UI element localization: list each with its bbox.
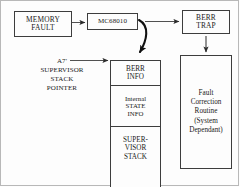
stack-pointer-line-1: A7'	[22, 57, 102, 66]
node-berr-trap[interactable]: BERR TRAP	[182, 10, 230, 34]
diagram-canvas: MEMORY FAULT MC68010 BERR TRAP Fault Cor…	[0, 0, 240, 187]
fault-routine-line-2: Correction	[191, 98, 222, 107]
node-memory-fault[interactable]: MEMORY FAULT	[14, 11, 72, 37]
arrow-processor-to-stack	[139, 20, 146, 52]
fault-routine-line-5: Dependant)	[189, 126, 223, 135]
label-supervisor-stack-pointer: A7' SUPERVISOR STACK POINTER	[22, 57, 102, 93]
supervisor-stack-line-1: SUPER-	[123, 136, 148, 144]
mc68010-label: MC68010	[98, 18, 127, 25]
stack-cell-berr-info[interactable]: BERR INFO	[111, 61, 160, 86]
node-fault-correction-routine[interactable]: Fault Correction Routine (System Dependa…	[180, 55, 232, 169]
supervisor-stack-line-3: STACK	[124, 153, 147, 161]
node-mc68010-processor[interactable]: MC68010	[87, 13, 138, 30]
fault-routine-line-3: Routine	[195, 107, 218, 116]
stack-cell-internal-state-info[interactable]: Internal STATE INFO	[111, 86, 160, 127]
supervisor-stack-line-2: VISOR	[125, 144, 147, 152]
memory-fault-line-2: FAULT	[31, 24, 54, 32]
stack-pointer-line-2: SUPERVISOR	[22, 66, 102, 75]
berr-info-line-2: INFO	[127, 73, 144, 81]
fault-routine-line-1: Fault	[199, 89, 214, 98]
state-info-line-3: INFO	[128, 110, 144, 118]
node-supervisor-stack-frame: BERR INFO Internal STATE INFO SUPER- VIS…	[110, 60, 161, 187]
fault-routine-line-4: (System	[194, 117, 218, 126]
stack-pointer-line-4: POINTER	[22, 84, 102, 93]
state-info-line-2: STATE	[126, 102, 146, 110]
state-info-line-1: Internal	[125, 95, 146, 103]
stack-cell-supervisor-stack[interactable]: SUPER- VISOR STACK	[111, 127, 160, 170]
berr-trap-line-2: TRAP	[196, 22, 216, 30]
stack-pointer-line-3: STACK	[22, 75, 102, 84]
berr-info-line-1: BERR	[126, 65, 145, 73]
